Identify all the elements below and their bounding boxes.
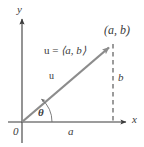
vector-definition-label: u = ⟨a, b⟩ xyxy=(44,45,86,56)
origin-label: 0 xyxy=(13,126,19,137)
vector-definition-components: ⟨a, b⟩ xyxy=(61,44,86,56)
vector-name-label: u xyxy=(49,71,54,81)
angle-theta-label: θ xyxy=(38,107,44,118)
x-axis-label: x xyxy=(132,114,137,125)
terminal-point-label: (a, b) xyxy=(104,24,130,36)
y-axis-label: y xyxy=(17,4,22,15)
vector-u-arrow xyxy=(22,48,109,123)
horizontal-component-label: a xyxy=(68,126,74,137)
vector-diagram: y x 0 (a, b) u = ⟨a, b⟩ u θ a b xyxy=(0,0,144,147)
vertical-component-label: b xyxy=(118,72,124,83)
